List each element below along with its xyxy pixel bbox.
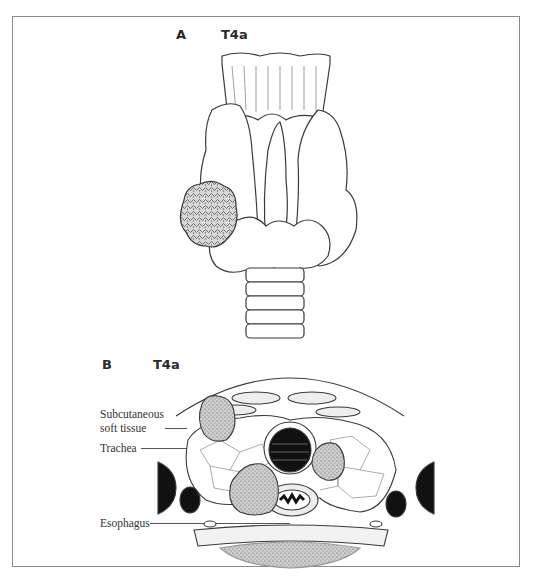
figure-caption-clipped xyxy=(12,575,520,583)
panel-b-cross-section-illustration xyxy=(0,0,533,583)
